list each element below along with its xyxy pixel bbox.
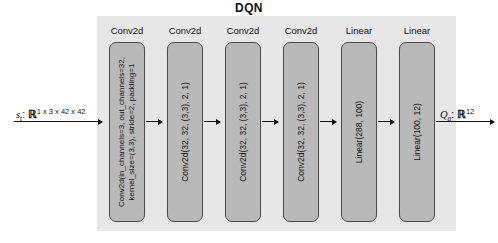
layer-block[interactable]: Linear(288, 100) <box>341 42 377 222</box>
layer-column: Conv2dConv2d(32, 32, (3,3), 2, 1) <box>278 16 324 231</box>
layer-column: Conv2dConv2d(32, 32, (3,3), 2, 1) <box>220 16 266 231</box>
output-separator: : <box>451 109 454 120</box>
output-arrow <box>436 121 494 122</box>
input-shape: 1 x 3 x 42 x 42 <box>37 107 86 116</box>
layer-block[interactable]: Linear(100, 12) <box>399 42 435 222</box>
layer-type-label: Linear <box>336 25 382 36</box>
diagram-canvas: DQN st: ℝ1 x 3 x 42 x 42 Conv2dConv2d(in… <box>0 0 498 243</box>
layer-type-label: Conv2d <box>162 25 208 36</box>
layer-connector-arrow <box>262 121 278 122</box>
input-space-symbol: ℝ <box>28 108 37 120</box>
output-shape: 12 <box>466 107 474 116</box>
layer-type-label: Conv2d <box>220 25 266 36</box>
layer-spec-text: Conv2d(32, 32, (3,3), 2, 1) <box>296 44 307 220</box>
layer-spec-text: Linear(288, 100) <box>354 44 365 220</box>
layer-spec-text: Conv2d(in_channels=3, out_channels=32, k… <box>117 44 137 220</box>
layer-block[interactable]: Conv2d(32, 32, (3,3), 2, 1) <box>283 42 319 222</box>
layer-connector-arrow <box>378 121 394 122</box>
layer-spec-text: Linear(100, 12) <box>412 44 423 220</box>
layer-spec-text: Conv2d(32, 32, (3,3), 2, 1) <box>180 44 191 220</box>
layer-block[interactable]: Conv2d(32, 32, (3,3), 2, 1) <box>225 42 261 222</box>
layer-column: Conv2dConv2d(in_channels=3, out_channels… <box>104 16 150 231</box>
layer-type-label: Conv2d <box>278 25 324 36</box>
layer-block[interactable]: Conv2d(32, 32, (3,3), 2, 1) <box>167 42 203 222</box>
output-space-symbol: ℝ <box>457 108 466 120</box>
layer-type-label: Conv2d <box>104 25 150 36</box>
input-arrow <box>14 121 102 122</box>
layer-block[interactable]: Conv2d(in_channels=3, out_channels=32, k… <box>109 42 145 222</box>
layer-column: LinearLinear(288, 100) <box>336 16 382 231</box>
output-symbol: Q <box>440 109 448 120</box>
layer-column: Conv2dConv2d(32, 32, (3,3), 2, 1) <box>162 16 208 231</box>
page-title: DQN <box>0 1 498 15</box>
layer-type-label: Linear <box>394 25 440 36</box>
layer-spec-text: Conv2d(32, 32, (3,3), 2, 1) <box>238 44 249 220</box>
layer-connector-arrow <box>204 121 220 122</box>
input-separator: : <box>22 109 25 120</box>
layer-connector-arrow <box>320 121 336 122</box>
layer-connector-arrow <box>146 121 162 122</box>
layer-column: LinearLinear(100, 12) <box>394 16 440 231</box>
